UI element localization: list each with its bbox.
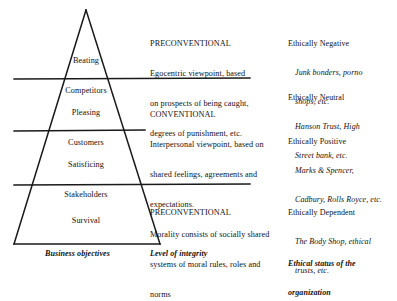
tier-line: Pleasing: [11, 108, 161, 118]
integrity-line: Egocentric viewpoint, based: [150, 69, 310, 79]
integrity-line: Interpersonal viewpoint, based on: [150, 140, 310, 150]
integrity-heading: PRECONVENTIONAL: [150, 208, 310, 218]
integrity-heading: PRECONVENTIONAL: [150, 39, 310, 49]
caption-ethical-status: Ethical status of the organization: [288, 239, 397, 301]
status-heading: Ethically Neutral: [288, 93, 397, 103]
integrity-line: systems of moral rules, roles and: [150, 260, 310, 270]
status-heading: Ethically Negative: [288, 39, 397, 49]
integrity-block-preconventional-bottom: PRECONVENTIONAL: [150, 188, 310, 238]
tier-line: Beating: [11, 56, 161, 66]
integrity-line: norms: [150, 290, 310, 300]
tier-label-survival: Survival: [11, 196, 161, 246]
caption-business-objectives: Business objectives: [45, 249, 110, 259]
integrity-heading: CONVENTIONAL: [150, 110, 310, 120]
tier-line: Satisficing: [11, 160, 161, 170]
status-example: Marks & Spencer,: [288, 166, 397, 176]
status-heading: Ethically Positive: [288, 137, 397, 147]
status-heading: Ethically Dependent: [288, 208, 397, 218]
tier-line: Survival: [11, 216, 161, 226]
caption-line: organization: [288, 288, 397, 298]
integrity-line: shared feelings, agreements and: [150, 170, 310, 180]
caption-line: Ethical status of the: [288, 259, 397, 269]
caption-level-of-integrity: Level of integrity: [150, 249, 207, 259]
